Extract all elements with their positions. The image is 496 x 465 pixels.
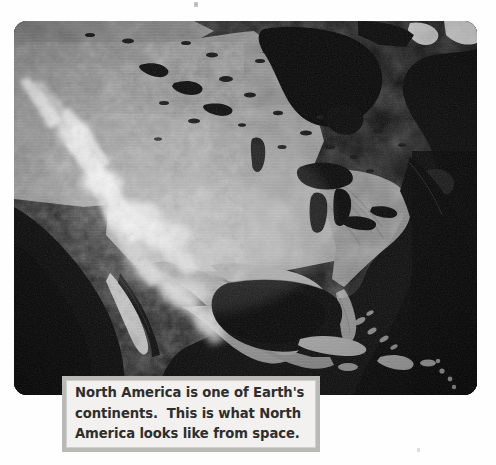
caption-line-1: North America is one of Earth's [75,383,316,404]
scan-artifact-bottom [417,448,420,452]
satellite-photo-north-america [14,21,477,395]
satellite-photo-canvas [14,21,477,395]
caption-line-3: America looks like from space. [75,424,316,445]
puerto-rico [420,360,436,367]
caption-box: North America is one of Earth's continen… [62,376,320,452]
jamaica [338,363,358,371]
caption-line-2: continents. This is what North [75,404,316,425]
page-background: North America is one of Earth's continen… [0,0,496,465]
scan-artifact-top [194,2,198,7]
